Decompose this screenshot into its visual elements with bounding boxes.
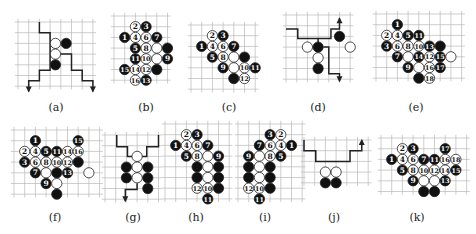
white-stone: 16	[73, 146, 83, 156]
caption-c: (c)	[222, 101, 237, 114]
diagram-d	[283, 12, 356, 83]
move-number: 4	[400, 155, 405, 164]
move-number: 9	[410, 176, 415, 185]
move-number: 7	[395, 52, 400, 61]
move-number: 3	[410, 144, 415, 153]
black-stone: 5	[403, 30, 413, 40]
black-stone: 3	[382, 41, 392, 51]
white-stone: 4	[207, 41, 217, 51]
move-number: 9	[165, 54, 170, 63]
black-stone: 9	[41, 178, 51, 188]
white-stone: 6	[192, 140, 202, 150]
black-stone: 1	[286, 140, 296, 150]
black-stone: 9	[162, 54, 172, 64]
black-stone: 11	[414, 30, 424, 40]
black-stone: 1	[197, 41, 207, 51]
move-number: 6	[395, 42, 400, 51]
black-stone: 9	[244, 151, 254, 161]
black-stone: 9	[408, 176, 418, 186]
white-stone	[403, 52, 413, 62]
white-stone: 6	[218, 41, 228, 51]
move-number: 6	[267, 141, 272, 150]
diagram-c: 231467589101112	[188, 22, 261, 93]
white-stone	[320, 167, 330, 177]
black-stone: 15	[73, 136, 83, 146]
white-stone: 2	[382, 30, 392, 40]
black-stone	[52, 168, 62, 178]
move-number: 4	[184, 141, 189, 150]
move-number: 13	[441, 177, 450, 184]
black-stone: 5	[181, 151, 191, 161]
black-stone	[265, 183, 275, 193]
move-number: 11	[131, 55, 140, 62]
white-stone: 18	[424, 73, 434, 83]
white-stone: 8	[408, 165, 418, 175]
white-stone: 10	[414, 41, 424, 51]
move-number: 11	[255, 196, 264, 203]
move-number: 5	[405, 31, 410, 40]
move-number: 8	[220, 53, 225, 62]
move-number: 7	[205, 141, 210, 150]
move-number: 9	[43, 179, 48, 188]
move-number: 8	[267, 152, 272, 161]
move-number: 5	[210, 53, 215, 62]
move-number: 17	[436, 64, 445, 71]
black-stone: 3	[141, 22, 151, 32]
black-stone	[265, 162, 275, 172]
black-stone	[419, 186, 429, 196]
move-number: 15	[120, 66, 129, 73]
white-stone: 6	[30, 157, 40, 167]
white-stone: 4	[130, 32, 140, 42]
move-number: 12	[193, 185, 202, 192]
white-stone: 8	[192, 151, 202, 161]
move-number: 10	[52, 159, 61, 166]
caption-d: (d)	[310, 101, 326, 114]
white-stone	[302, 42, 312, 52]
white-stone: 10	[254, 183, 264, 193]
black-stone: 17	[440, 144, 450, 154]
white-stone	[254, 151, 264, 161]
move-number: 5	[43, 147, 48, 156]
white-stone: 4	[181, 140, 191, 150]
white-stone: 12	[424, 52, 434, 62]
move-number: 7	[421, 155, 426, 164]
move-number: 12	[142, 66, 151, 73]
white-stone: 2	[207, 31, 217, 41]
move-number: 1	[173, 141, 178, 150]
white-stone: 2	[130, 22, 140, 32]
arrow-icon	[337, 17, 343, 23]
white-stone	[203, 172, 213, 182]
diagram-i: 327641985121011	[235, 121, 306, 204]
move-number: 1	[33, 136, 38, 145]
move-number: 3	[384, 42, 389, 51]
black-stone: 9	[403, 62, 413, 72]
move-number: 12	[430, 167, 439, 174]
white-stone: 4	[397, 154, 407, 164]
white-stone	[132, 162, 142, 172]
move-number: 5	[278, 152, 283, 161]
move-number: 18	[452, 156, 461, 163]
white-stone: 10	[141, 54, 151, 64]
black-stone: 7	[30, 168, 40, 178]
white-stone: 4	[276, 140, 286, 150]
black-stone: 5	[41, 146, 51, 156]
move-number: 1	[395, 20, 400, 29]
black-stone	[213, 162, 223, 172]
black-stone	[331, 178, 341, 188]
move-number: 12	[63, 159, 72, 166]
white-stone: 12	[429, 165, 439, 175]
move-number: 2	[400, 144, 405, 153]
diagram-f: 11524511141636810127139	[11, 127, 103, 200]
move-number: 2	[184, 130, 189, 139]
white-stone	[446, 52, 456, 62]
white-stone: 4	[392, 30, 402, 40]
move-number: 3	[194, 130, 199, 139]
black-stone: 11	[254, 194, 264, 204]
black-stone	[229, 73, 239, 83]
move-number: 11	[203, 196, 212, 203]
move-number: 11	[430, 156, 439, 163]
black-stone: 5	[397, 165, 407, 175]
black-stone: 3	[218, 31, 228, 41]
black-stone	[239, 52, 249, 62]
black-stone: 11	[130, 54, 140, 64]
